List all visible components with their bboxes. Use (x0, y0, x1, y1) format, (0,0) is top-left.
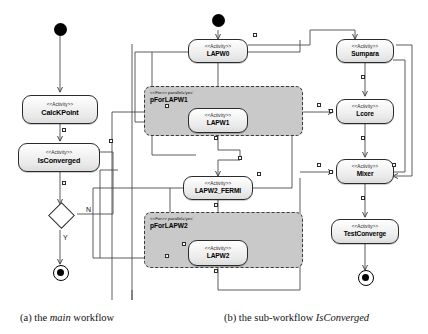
caption-a-suffix: workflow (71, 312, 114, 323)
edge-lapw0-down-right (248, 40, 300, 52)
activity-stereotype: <<Activity>> (46, 151, 72, 156)
activity-name: LAPW1 (207, 120, 230, 127)
guard-label-no: N (86, 206, 91, 213)
pin-mixer-in-a (317, 163, 321, 167)
activity-lapw2-fermi[interactable]: <<Activity>> LAPW2_FERMI (183, 176, 253, 200)
pin-lapw1-branch (238, 156, 242, 160)
activity-name: Mixer (357, 171, 374, 178)
activity-name: Lcore (356, 111, 373, 118)
activity-testconverge[interactable]: <<Activity>> TestConverge (331, 219, 399, 244)
pin-mixer-in-right (392, 163, 396, 167)
activity-mixer[interactable]: <<Activity>> Mixer (336, 159, 394, 184)
edge-mixer-feedback-right (393, 60, 405, 172)
pin-lapw1-in (165, 104, 169, 108)
caption-a-prefix: (a) the (20, 312, 50, 323)
sub-initial-node (212, 14, 225, 27)
sub-final-node (358, 270, 374, 286)
activity-name: TestConverge (344, 231, 386, 238)
pin-lapw2fermi-in (257, 172, 261, 176)
pin-lapw2-out (214, 269, 218, 273)
pin-lapw1-out (214, 136, 218, 140)
guard-label-yes: Y (63, 234, 68, 241)
pin-lcore-out (361, 136, 365, 140)
activity-name: Sumpara (351, 51, 379, 58)
activity-stereotype: <<Activity>> (352, 45, 378, 50)
pin-mixer-in-b (329, 170, 333, 174)
activity-name: IsConverged (38, 157, 80, 164)
partition-name: pForLAPW2 (150, 222, 188, 229)
activity-name: CalcKPoint (41, 109, 78, 116)
activity-lapw0[interactable]: <<Activity>> LAPW0 (188, 39, 248, 63)
partition-stereotype: <<For>> parallel='yes' (150, 90, 193, 95)
pin-lapw2-guard (182, 242, 186, 246)
pin-isconverged-out (62, 181, 66, 185)
activity-lapw1[interactable]: <<Activity>> LAPW1 (188, 108, 248, 133)
activity-stereotype: <<Activity>> (205, 45, 231, 50)
pin-calckpoint-out (62, 128, 66, 132)
activity-name: LAPW2_FERMI (195, 188, 241, 195)
pin-sumpara-in (253, 33, 257, 37)
activity-stereotype: <<Activity>> (205, 182, 231, 187)
activity-calckpoint[interactable]: <<Activity>> CalcKPoint (22, 95, 98, 124)
caption-b-prefix: (b) the sub-workflow (224, 312, 316, 323)
edge-sumpara-feedback (393, 45, 412, 176)
edge-lapw2-to-sink (218, 267, 265, 290)
pin-lapw2fermi-out (214, 203, 218, 207)
figure-uml-activity-diagrams: <<Activity>> CalcKPoint <<Activity>> IsC… (0, 0, 428, 334)
edge-bus-left-to-lcore (112, 112, 300, 300)
pin-lapw2-in (165, 254, 169, 258)
activity-sumpara[interactable]: <<Activity>> Sumpara (336, 39, 394, 63)
pin-lcore-in-b (329, 109, 333, 113)
pin-lcore-in-a (317, 103, 321, 107)
main-initial-node (54, 23, 67, 36)
caption-a-italic: main (50, 312, 71, 323)
main-final-node (53, 265, 69, 281)
activity-stereotype: <<Activity>> (47, 103, 73, 108)
pin-mixer-out (361, 196, 365, 200)
caption-b: (b) the sub-workflow IsConverged (224, 312, 369, 323)
pin-isconverged-in (109, 139, 113, 143)
activity-lapw2[interactable]: <<Activity>> LAPW2 (188, 240, 248, 266)
partition-name: pForLAPW1 (150, 96, 188, 103)
activity-isconverged[interactable]: <<Activity>> IsConverged (18, 143, 100, 172)
activity-name: LAPW0 (207, 51, 230, 58)
activity-name: LAPW2 (207, 253, 230, 260)
activity-stereotype: <<Activity>> (205, 247, 231, 252)
caption-a: (a) the main workflow (20, 312, 114, 323)
activity-lcore[interactable]: <<Activity>> Lcore (336, 99, 394, 124)
edge-lapw1-to-lapw2fermi (218, 133, 240, 176)
caption-b-italic: IsConverged (316, 312, 369, 323)
partition-stereotype: <<For>> parallel='yes' (150, 216, 193, 221)
pin-sumpara-out (361, 75, 365, 79)
